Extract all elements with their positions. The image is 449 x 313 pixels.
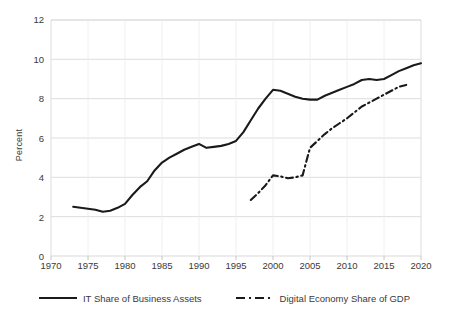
x-tick-2000: 2000 (256, 261, 290, 271)
x-tick-2015: 2015 (367, 261, 401, 271)
x-tick-2020: 2020 (404, 261, 438, 271)
x-tick-2005: 2005 (293, 261, 327, 271)
y-tick-10: 10 (22, 55, 44, 65)
legend-item-it-share: IT Share of Business Assets (39, 293, 202, 304)
chart-legend: IT Share of Business Assets Digital Econ… (0, 288, 449, 308)
y-tick-2: 2 (22, 213, 44, 223)
legend-label-digital-economy: Digital Economy Share of GDP (280, 293, 410, 304)
x-tick-2010: 2010 (330, 261, 364, 271)
legend-label-it-share: IT Share of Business Assets (83, 293, 202, 304)
chart-figure: Percent 0 2 4 6 8 10 12 1970 1975 1980 1… (0, 0, 449, 313)
y-tick-6: 6 (22, 134, 44, 144)
legend-item-digital-economy: Digital Economy Share of GDP (236, 293, 410, 304)
x-tick-1980: 1980 (108, 261, 142, 271)
x-tick-1985: 1985 (145, 261, 179, 271)
series-line-it-share (73, 63, 421, 211)
x-tick-1990: 1990 (182, 261, 216, 271)
y-tick-4: 4 (22, 173, 44, 183)
x-tick-1995: 1995 (219, 261, 253, 271)
series-line-digital-economy (251, 85, 406, 200)
x-tick-1970: 1970 (34, 261, 68, 271)
y-tick-12: 12 (22, 15, 44, 25)
legend-swatch-dash-dot (236, 294, 274, 302)
x-tick-1975: 1975 (71, 261, 105, 271)
legend-swatch-solid (39, 294, 77, 302)
y-tick-8: 8 (22, 94, 44, 104)
